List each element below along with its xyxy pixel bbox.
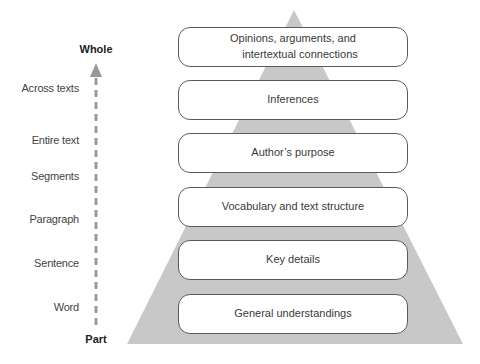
tier-general-understandings: General understandings [178, 294, 408, 334]
tier-text: Key details [266, 252, 320, 268]
level-label-segments: Segments [31, 170, 79, 182]
tier-key-details: Key details [178, 240, 408, 280]
tier-text: General understandings [234, 306, 351, 322]
level-label-word: Word [54, 301, 79, 313]
tier-inferences: Inferences [178, 80, 408, 120]
tier-vocabulary-structure: Vocabulary and text structure [178, 187, 408, 227]
level-label-entire-text: Entire text [32, 134, 79, 146]
axis-bottom-label: Part [85, 333, 106, 345]
tier-opinions-arguments: Opinions, arguments, and intertextual co… [178, 27, 408, 67]
level-label-sentence: Sentence [34, 257, 79, 269]
tier-text: Inferences [267, 92, 318, 108]
tier-authors-purpose: Author’s purpose [178, 133, 408, 173]
tier-text-line2: intertextual connections [228, 47, 358, 63]
level-label-paragraph: Paragraph [29, 213, 79, 225]
axis-top-label: Whole [80, 43, 113, 55]
arrow-up-icon [90, 63, 102, 77]
tier-text: Vocabulary and text structure [222, 199, 364, 215]
tier-text: Author’s purpose [251, 145, 334, 161]
level-label-across-texts: Across texts [21, 82, 79, 94]
tier-text-line1: Opinions, arguments, and [230, 32, 356, 44]
